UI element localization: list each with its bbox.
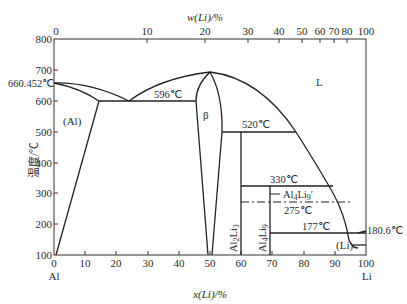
svg-text:20: 20 xyxy=(111,257,123,269)
t330-label: 330℃ xyxy=(270,174,298,185)
x2-tick-labels: 0 10 20 30 40 50 60 70 80 100 xyxy=(53,25,375,37)
svg-text:60: 60 xyxy=(236,257,248,269)
svg-text:700: 700 xyxy=(36,64,53,76)
y-ticks xyxy=(54,70,58,224)
svg-text:40: 40 xyxy=(274,25,286,37)
al4li9-prime-label: Al4Li9′ xyxy=(283,189,313,202)
t177-label: 177℃ xyxy=(302,221,330,232)
svg-text:80: 80 xyxy=(299,257,311,269)
x2-axis-title: w(Li)/% xyxy=(187,11,223,24)
svg-text:50: 50 xyxy=(205,257,217,269)
svg-text:600: 600 xyxy=(36,95,53,107)
t275-label: 275℃ xyxy=(284,205,312,216)
svg-text:30: 30 xyxy=(143,257,155,269)
svg-text:40: 40 xyxy=(174,257,186,269)
svg-text:70: 70 xyxy=(329,25,341,37)
liquidus-right xyxy=(210,72,358,248)
svg-text:100: 100 xyxy=(358,25,375,37)
al-end-label: Al xyxy=(49,270,60,282)
svg-text:0: 0 xyxy=(53,25,59,37)
al-phase-label: (Al) xyxy=(63,115,82,128)
svg-text:20: 20 xyxy=(200,25,212,37)
x-tick-labels: 0 10 20 30 40 50 60 70 80 90 100 xyxy=(51,257,375,269)
svg-text:10: 10 xyxy=(142,25,154,37)
svg-text:100: 100 xyxy=(358,257,375,269)
svg-text:800: 800 xyxy=(36,33,53,45)
li-end-label: Li xyxy=(362,270,372,282)
svg-text:10: 10 xyxy=(80,257,92,269)
beta-left xyxy=(196,72,210,255)
svg-text:0: 0 xyxy=(51,257,57,269)
svg-text:200: 200 xyxy=(36,218,53,230)
solidus-al xyxy=(54,83,99,101)
al2li3-label: Al2Li3 xyxy=(228,224,241,252)
t660-label: 660.452℃ xyxy=(8,78,54,89)
t596-label: 596℃ xyxy=(154,89,182,100)
li-phase-label: (Li) xyxy=(336,239,353,252)
svg-text:100: 100 xyxy=(36,249,53,261)
svg-text:60: 60 xyxy=(315,25,327,37)
x-ticks xyxy=(85,251,335,255)
x2-ticks xyxy=(147,39,347,43)
al4li9-label: Al4Li9 xyxy=(257,224,270,252)
liquid-label: L xyxy=(316,76,323,88)
phase-diagram: 800 700 600 500 400 300 200 100 温度/℃ 0 1… xyxy=(0,0,407,304)
beta-right xyxy=(210,72,222,255)
svg-text:50: 50 xyxy=(297,25,309,37)
t180-label: 180.6℃ xyxy=(367,225,403,236)
svg-text:300: 300 xyxy=(36,187,53,199)
svg-text:30: 30 xyxy=(243,25,255,37)
svg-text:90: 90 xyxy=(330,257,342,269)
svg-text:80: 80 xyxy=(342,25,354,37)
t520-label: 520℃ xyxy=(242,119,270,130)
x-axis-title: x(Li)/% xyxy=(192,288,227,301)
svg-text:500: 500 xyxy=(36,126,53,138)
beta-label: β xyxy=(203,109,209,121)
y-axis-title: 温度/℃ xyxy=(27,142,40,178)
svg-text:70: 70 xyxy=(267,257,279,269)
